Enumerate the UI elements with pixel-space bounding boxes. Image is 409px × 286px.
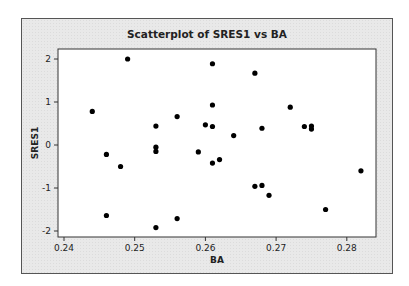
data-point <box>210 124 215 129</box>
data-point <box>302 124 307 129</box>
y-tick-label: 1 <box>45 97 51 107</box>
data-point <box>153 123 158 128</box>
data-point <box>104 213 109 218</box>
y-tick-label: -1 <box>42 183 51 193</box>
x-tick-label: 0.25 <box>125 243 145 253</box>
data-point <box>153 225 158 230</box>
data-point <box>266 193 271 198</box>
y-tick-label: 2 <box>45 54 51 64</box>
data-point <box>125 56 130 61</box>
data-point <box>90 109 95 114</box>
data-point <box>217 157 222 162</box>
data-point <box>323 207 328 212</box>
data-point <box>175 114 180 119</box>
data-point <box>252 184 257 189</box>
x-axis-label: BA <box>210 255 224 265</box>
data-point <box>104 152 109 157</box>
data-point <box>210 61 215 66</box>
data-point <box>231 133 236 138</box>
data-point <box>259 183 264 188</box>
y-tick-label: -2 <box>42 226 51 236</box>
x-tick-label: 0.28 <box>337 243 357 253</box>
data-point <box>196 149 201 154</box>
data-point <box>203 122 208 127</box>
y-tick-label: 0 <box>45 140 51 150</box>
x-tick-label: 0.27 <box>266 243 286 253</box>
y-axis: -2-1012 <box>42 54 58 236</box>
x-axis: 0.240.250.260.270.28 <box>54 237 357 253</box>
data-point <box>252 71 257 76</box>
x-tick-label: 0.24 <box>54 243 74 253</box>
plot-area <box>58 49 376 237</box>
data-point <box>118 164 123 169</box>
data-point <box>259 126 264 131</box>
data-point <box>309 126 314 131</box>
scatter-plot: 0.240.250.260.270.28 -2-1012 BA SRES1 <box>0 0 409 286</box>
data-point <box>288 105 293 110</box>
x-tick-label: 0.26 <box>195 243 215 253</box>
y-axis-label: SRES1 <box>30 127 40 159</box>
data-point <box>210 102 215 107</box>
data-point <box>175 216 180 221</box>
data-point <box>210 160 215 165</box>
data-point <box>153 149 158 154</box>
data-point <box>358 168 363 173</box>
